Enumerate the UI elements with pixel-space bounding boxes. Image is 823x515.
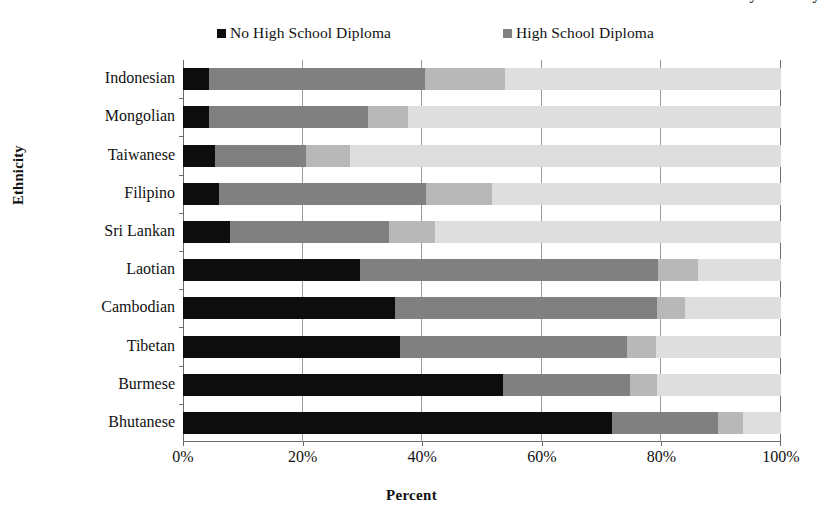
bar-segment — [505, 68, 781, 90]
y-axis-category-label: Sri Lankan — [8, 222, 183, 240]
bar-segment — [183, 183, 219, 205]
x-axis-title: Percent — [0, 487, 823, 504]
bar-segment — [183, 221, 230, 243]
bar-segment — [183, 297, 395, 319]
x-tick-mark — [183, 442, 184, 446]
bar-segment — [657, 297, 685, 319]
bar-segment — [503, 374, 630, 396]
legend-label: High School Diploma — [516, 24, 654, 42]
bar-row — [183, 106, 781, 128]
bar-segment — [368, 106, 407, 128]
bar-segment — [183, 412, 612, 434]
bar-segment — [718, 412, 743, 434]
y-tick-mark — [179, 289, 183, 290]
y-tick-mark — [179, 366, 183, 367]
bar-segment — [183, 68, 209, 90]
bar-row — [183, 259, 781, 281]
y-axis-category-label: Burmese — [8, 375, 183, 393]
stacked-bar — [183, 145, 781, 167]
bar-segment — [183, 374, 503, 396]
bar-segment — [230, 221, 389, 243]
y-tick-mark — [179, 327, 183, 328]
bar-row — [183, 374, 781, 396]
bar-row — [183, 68, 781, 90]
bar-segment — [656, 336, 781, 358]
bar-row — [183, 145, 781, 167]
y-tick-mark — [179, 251, 183, 252]
x-tick-mark — [303, 442, 304, 446]
y-axis-category-label: Cambodian — [8, 298, 183, 316]
x-tick-label: 20% — [288, 448, 317, 466]
bar-segment — [426, 183, 492, 205]
bar-segment — [183, 145, 215, 167]
legend-item-0: No High School Diploma — [217, 22, 391, 44]
bar-segment — [408, 106, 781, 128]
y-axis-category-label: Bhutanese — [8, 413, 183, 431]
stacked-bar — [183, 259, 781, 281]
stacked-bar — [183, 412, 781, 434]
bar-segment — [306, 145, 350, 167]
y-tick-mark — [179, 213, 183, 214]
bar-row — [183, 297, 781, 319]
bar-row — [183, 221, 781, 243]
legend-swatch-icon — [217, 29, 226, 38]
y-axis-category-label: Indonesian — [8, 69, 183, 87]
legend-item-1: High School Diploma — [503, 22, 654, 44]
y-axis-category-label: Mongolian — [8, 107, 183, 125]
bar-segment — [389, 221, 435, 243]
x-tick-label: 80% — [647, 448, 676, 466]
bar-segment — [630, 374, 658, 396]
bar-row — [183, 183, 781, 205]
bar-segment — [395, 297, 657, 319]
bar-segment — [657, 374, 781, 396]
bar-segment — [209, 106, 369, 128]
bar-segment — [435, 221, 781, 243]
x-tick-mark — [780, 442, 781, 446]
x-tick-mark — [542, 442, 543, 446]
y-axis-category-label: Taiwanese — [8, 146, 183, 164]
bar-segment — [350, 145, 781, 167]
bar-segment — [215, 145, 306, 167]
x-tick-label: 40% — [408, 448, 437, 466]
bar-row — [183, 412, 781, 434]
bar-segment — [183, 336, 400, 358]
y-tick-mark — [179, 404, 183, 405]
stacked-bar — [183, 183, 781, 205]
bar-segment — [219, 183, 425, 205]
legend-swatch-icon — [503, 29, 512, 38]
stacked-bar — [183, 221, 781, 243]
y-tick-mark — [179, 98, 183, 99]
bar-segment — [658, 259, 699, 281]
legend-label: No High School Diploma — [230, 24, 391, 42]
y-axis-category-label: Filipino — [8, 184, 183, 202]
bar-segment — [743, 412, 781, 434]
bar-row — [183, 336, 781, 358]
x-tick-mark — [422, 442, 423, 446]
stacked-bar — [183, 68, 781, 90]
y-tick-mark — [179, 175, 183, 176]
stacked-bar — [183, 106, 781, 128]
bar-segment — [360, 259, 658, 281]
stacked-bar — [183, 374, 781, 396]
bar-segment — [183, 259, 360, 281]
bar-segment — [492, 183, 781, 205]
x-tick-mark — [661, 442, 662, 446]
bar-segment — [685, 297, 781, 319]
chart-title-cutoff: Educational Attainment by Ethnicity — [430, 0, 820, 3]
stacked-bar — [183, 297, 781, 319]
bar-segment — [612, 412, 718, 434]
x-tick-label: 60% — [527, 448, 556, 466]
chart-figure: Educational Attainment by Ethnicity No H… — [0, 0, 823, 515]
y-axis-category-label: Laotian — [8, 260, 183, 278]
bar-segment — [183, 106, 209, 128]
bar-segment — [698, 259, 781, 281]
x-tick-label: 0% — [172, 448, 193, 466]
bar-segment — [425, 68, 505, 90]
bar-segment — [400, 336, 627, 358]
y-tick-mark — [179, 136, 183, 137]
x-tick-label: 100% — [762, 448, 799, 466]
bar-segment — [627, 336, 656, 358]
plot-area — [183, 60, 781, 442]
stacked-bar — [183, 336, 781, 358]
chart-legend: No High School DiplomaHigh School Diplom… — [183, 22, 781, 44]
